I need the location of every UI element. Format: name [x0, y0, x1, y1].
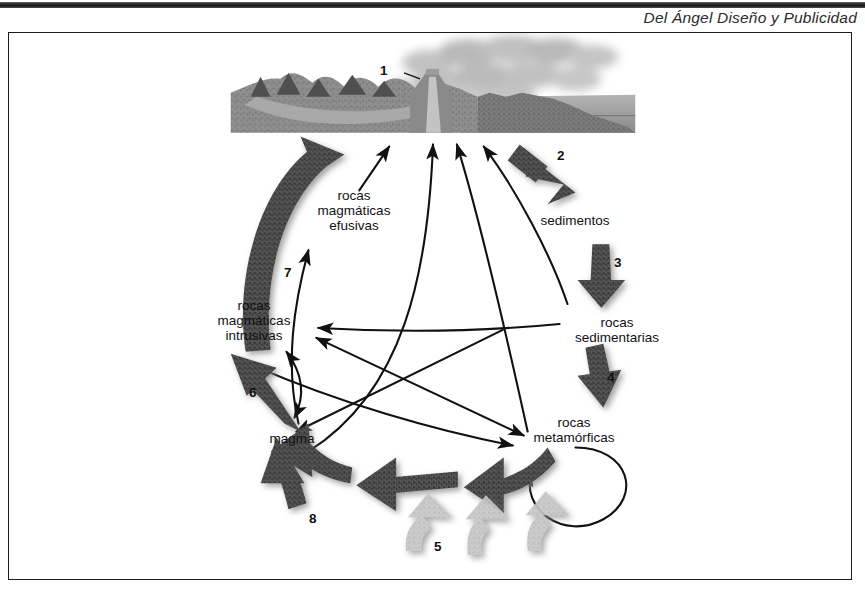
- node-label-magma: magma: [247, 431, 337, 446]
- step-number-2: 2: [557, 148, 565, 163]
- header-credit: Del Ángel Diseño y Publicidad: [644, 9, 857, 27]
- step-number-5: 5: [434, 539, 442, 554]
- thick-arrow-2-sedimentos: [508, 145, 576, 205]
- arrow-efusivas-to-surface: [359, 147, 389, 191]
- step-number-7: 7: [284, 265, 292, 280]
- thick-arrow-6-intrusivas: [231, 354, 301, 432]
- thick-arrow-3-sedimentarias: [577, 244, 625, 308]
- node-label-rocas-magmaticas-efusivas: rocas magmáticas efusivas: [294, 188, 414, 233]
- node-label-rocas-sedimentarias: rocas sedimentarias: [557, 315, 677, 345]
- step-number-6: 6: [249, 385, 257, 400]
- step-number-4: 4: [607, 370, 615, 385]
- node-label-sedimentos: sedimentos: [515, 213, 635, 228]
- node-label-rocas-magmaticas-intrusivas: rocas magmáticas intrusivas: [194, 298, 314, 343]
- volcano-crater: [426, 69, 439, 75]
- node-label-rocas-metamorficas: rocas metamórficas: [514, 415, 634, 445]
- step-number-8: 8: [309, 511, 317, 526]
- figure-frame: rocas magmáticas efusivas rocas magmátic…: [8, 32, 852, 580]
- thick-arrows-5-heat: [406, 491, 570, 555]
- rock-cycle-diagram: [9, 33, 851, 579]
- arrow-metamorficas-to-magma: [296, 330, 502, 432]
- header-rule: [0, 2, 865, 8]
- step-number-3: 3: [614, 255, 622, 270]
- landscape-cross-section: [231, 35, 636, 133]
- arrow-sedimentarias-to-intrusivas: [318, 324, 559, 331]
- arrow-metamorficas-to-surface: [457, 145, 528, 432]
- step-number-1: 1: [380, 63, 388, 78]
